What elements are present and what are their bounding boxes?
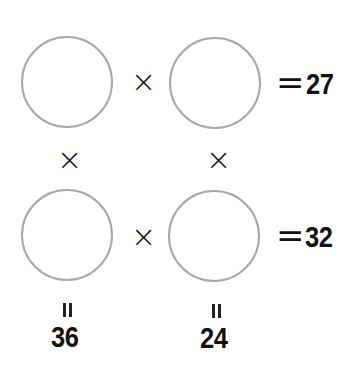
row1-result: 27 bbox=[306, 69, 334, 99]
cell-r2c1[interactable] bbox=[21, 189, 113, 281]
equals-sign-row2: = bbox=[276, 218, 305, 252]
col2-result: 24 bbox=[200, 323, 228, 353]
multiply-sign-row1: × bbox=[131, 67, 156, 97]
equals-sign-col1 bbox=[62, 303, 72, 317]
cell-r1c2[interactable] bbox=[169, 37, 261, 129]
cell-r2c2[interactable] bbox=[168, 190, 260, 282]
equals-sign-row1: = bbox=[276, 65, 305, 99]
row2-result: 32 bbox=[305, 222, 333, 252]
multiply-sign-col1: × bbox=[57, 145, 82, 175]
col1-result: 36 bbox=[51, 322, 79, 352]
equals-sign-col2 bbox=[211, 304, 221, 318]
multiply-sign-col2: × bbox=[206, 145, 231, 175]
multiply-sign-row2: × bbox=[131, 222, 156, 252]
cell-r1c1[interactable] bbox=[21, 36, 113, 128]
